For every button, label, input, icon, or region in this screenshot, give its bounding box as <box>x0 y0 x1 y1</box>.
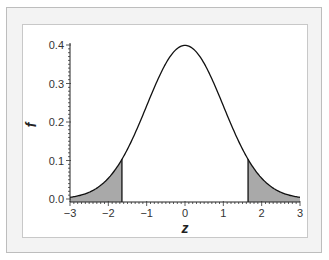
x-tick-label: −2 <box>102 207 115 219</box>
y-tick-label: 0.4 <box>49 39 64 51</box>
y-tick-label: 0.1 <box>49 155 64 167</box>
x-axis: −3−2−10123 <box>64 201 303 219</box>
x-tick-label: −1 <box>140 207 153 219</box>
x-axis-title: z <box>181 220 189 236</box>
x-tick-label: 0 <box>182 207 188 219</box>
y-axis-title: f <box>23 121 39 127</box>
x-tick-label: 3 <box>297 207 303 219</box>
normal-curve-chart: 0.00.10.20.30.4 −3−2−10123 z f <box>0 0 329 260</box>
y-tick-label: 0.2 <box>49 116 64 128</box>
x-tick-label: 1 <box>220 207 226 219</box>
shaded-tails <box>70 159 300 202</box>
y-tick-label: 0.3 <box>49 78 64 90</box>
y-axis: 0.00.10.20.30.4 <box>49 39 71 205</box>
density-curve <box>70 45 300 197</box>
x-tick-label: 2 <box>259 207 265 219</box>
x-tick-label: −3 <box>64 207 77 219</box>
y-tick-label: 0.0 <box>49 193 64 205</box>
